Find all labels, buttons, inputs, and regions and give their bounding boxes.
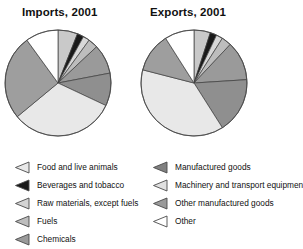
- legend-item[interactable]: Beverages and tobacco: [14, 176, 154, 194]
- legend-item[interactable]: Other manufactured goods: [152, 194, 303, 212]
- legend-item-label: Other: [175, 217, 196, 225]
- pie-chart-imports: [4, 29, 112, 137]
- page-title-exports: Exports, 2001: [150, 6, 226, 18]
- legend-item-label: Other manufactured goods: [175, 199, 274, 207]
- pie-chart-exports: [140, 29, 248, 137]
- triangle-swatch-icon: [152, 179, 169, 192]
- pie-slices-imports: [5, 30, 111, 136]
- pie-chart-imports-svg: [4, 29, 112, 137]
- legend-item[interactable]: Chemicals: [14, 230, 154, 248]
- legend-item-label: Machinery and transport equipment: [175, 181, 303, 189]
- triangle-swatch-icon: [152, 161, 169, 174]
- page-title-imports: Imports, 2001: [22, 6, 97, 18]
- triangle-swatch-icon: [152, 197, 169, 210]
- pie-chart-exports-svg: [140, 29, 248, 137]
- chart-page: Imports, 2001 Exports, 2001 Food and liv…: [0, 0, 303, 249]
- legend-item[interactable]: Other: [152, 212, 303, 230]
- legend-item[interactable]: Raw materials, except fuels: [14, 194, 154, 212]
- legend-item-label: Chemicals: [37, 235, 76, 243]
- triangle-swatch-icon: [14, 233, 31, 246]
- triangle-swatch-icon: [14, 215, 31, 228]
- legend-item[interactable]: Manufactured goods: [152, 158, 303, 176]
- legend-item[interactable]: Fuels: [14, 212, 154, 230]
- pie-slices-exports: [141, 30, 247, 136]
- triangle-swatch-icon: [152, 215, 169, 228]
- triangle-swatch-icon: [14, 179, 31, 192]
- legend-item-label: Food and live animals: [37, 163, 118, 171]
- legend-item[interactable]: Machinery and transport equipment: [152, 176, 303, 194]
- legend-item-label: Raw materials, except fuels: [37, 199, 138, 207]
- triangle-swatch-icon: [14, 197, 31, 210]
- chart-legend: Food and live animalsBeverages and tobac…: [0, 158, 303, 249]
- triangle-swatch-icon: [14, 161, 31, 174]
- legend-item-label: Fuels: [37, 217, 57, 225]
- legend-item-label: Beverages and tobacco: [37, 181, 124, 189]
- legend-column-left: Food and live animalsBeverages and tobac…: [14, 158, 154, 248]
- legend-item[interactable]: Food and live animals: [14, 158, 154, 176]
- legend-column-right: Manufactured goodsMachinery and transpor…: [152, 158, 303, 230]
- legend-item-label: Manufactured goods: [175, 163, 251, 171]
